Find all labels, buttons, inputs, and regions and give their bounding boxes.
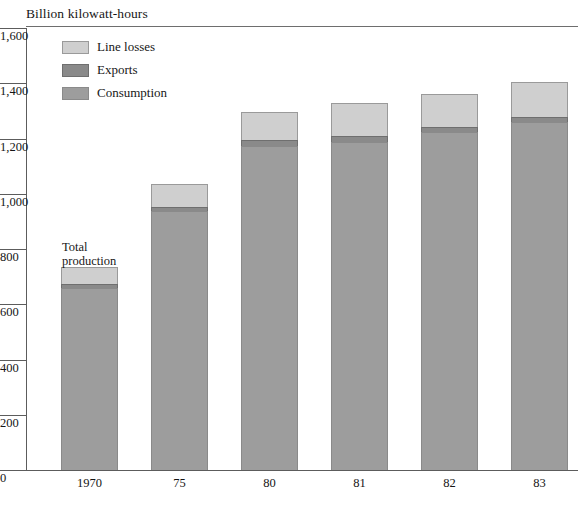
y-tick-label: 1,400 [0, 84, 28, 99]
bar-segment-line-losses-75[interactable] [151, 184, 208, 207]
x-axis-line [3, 470, 578, 471]
annotation-total-production: Total production [62, 240, 116, 268]
legend-swatch-line-losses [62, 41, 89, 54]
legend-swatch-exports [62, 64, 89, 77]
bar-segment-consumption-80[interactable] [241, 146, 298, 470]
bar-80[interactable] [241, 112, 298, 470]
x-axis-label-75: 75 [141, 476, 218, 491]
y-tick-label: 400 [0, 361, 19, 376]
x-axis-label-83: 83 [501, 476, 578, 491]
bar-81[interactable] [331, 103, 388, 470]
x-axis-label-81: 81 [321, 476, 398, 491]
bar-segment-consumption-82[interactable] [421, 132, 478, 470]
bar-segment-exports-80[interactable] [241, 140, 298, 146]
legend-item-line-losses: Line losses [62, 37, 167, 57]
legend-item-consumption: Consumption [62, 83, 167, 103]
x-axis-label-80: 80 [231, 476, 308, 491]
bar-segment-exports-75[interactable] [151, 207, 208, 211]
bar-83[interactable] [511, 82, 568, 470]
y-tick-label: 0 [0, 471, 6, 486]
bar-segment-line-losses-81[interactable] [331, 103, 388, 136]
legend: Line losses Exports Consumption [62, 37, 167, 106]
legend-swatch-consumption [62, 87, 89, 100]
bar-segment-line-losses-82[interactable] [421, 94, 478, 127]
bar-segment-line-losses-1970[interactable] [61, 267, 118, 284]
x-axis-label-1970: 1970 [51, 476, 128, 491]
bar-75[interactable] [151, 184, 208, 470]
chart-title: Billion kilowatt-hours [26, 6, 148, 22]
y-tick-label: 1,000 [0, 195, 28, 210]
legend-label-exports: Exports [97, 62, 137, 78]
chart-container: Billion kilowatt-hours 02004006008001,00… [0, 0, 582, 507]
bar-segment-exports-82[interactable] [421, 127, 478, 132]
bar-segment-consumption-83[interactable] [511, 122, 568, 470]
bar-82[interactable] [421, 94, 478, 470]
y-tick-label: 600 [0, 305, 19, 320]
legend-label-line-losses: Line losses [97, 39, 155, 55]
y-tick-label: 200 [0, 416, 19, 431]
bar-segment-exports-1970[interactable] [61, 284, 118, 288]
y-tick-label: 800 [0, 250, 19, 265]
legend-item-exports: Exports [62, 60, 167, 80]
title-divider [26, 26, 578, 27]
bar-segment-line-losses-80[interactable] [241, 112, 298, 140]
bar-segment-exports-81[interactable] [331, 136, 388, 142]
x-axis-label-82: 82 [411, 476, 488, 491]
bar-segment-consumption-75[interactable] [151, 211, 208, 470]
bar-segment-consumption-1970[interactable] [61, 288, 118, 470]
bar-segment-line-losses-83[interactable] [511, 82, 568, 117]
y-tick-label: 1,600 [0, 29, 28, 44]
legend-label-consumption: Consumption [97, 85, 167, 101]
bar-1970[interactable] [61, 267, 118, 470]
y-tick-label: 1,200 [0, 140, 28, 155]
bar-segment-consumption-81[interactable] [331, 142, 388, 470]
bar-segment-exports-83[interactable] [511, 117, 568, 122]
